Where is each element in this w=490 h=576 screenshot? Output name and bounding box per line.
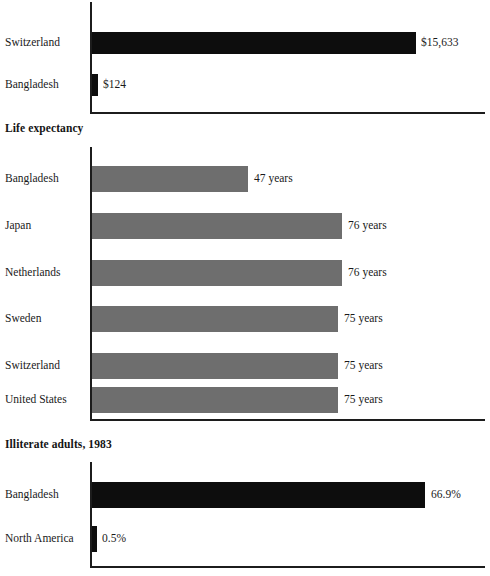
- bar-value-united-states: 75 years: [344, 394, 383, 406]
- chart-illiterate-adults-y-axis: [90, 462, 92, 568]
- bar-bangladesh: [92, 166, 248, 192]
- row-label-switzerland: Switzerland: [5, 360, 60, 372]
- chart-life-expectancy-title: Life expectancy: [5, 122, 83, 134]
- bar-bangladesh: [92, 482, 425, 508]
- row-label-sweden: Sweden: [5, 313, 41, 325]
- chart-gnp: Switzerland $15,633 Bangladesh $124: [0, 0, 490, 116]
- chart-illiterate-adults-title: Illiterate adults, 1983: [5, 438, 112, 450]
- bar-value-bangladesh: $124: [103, 79, 126, 91]
- row-label-bangladesh: Bangladesh: [5, 173, 59, 185]
- row-label-bangladesh: Bangladesh: [5, 79, 59, 91]
- bar-sweden: [92, 306, 338, 332]
- bar-north-america: [92, 526, 97, 552]
- bar-japan: [92, 213, 342, 239]
- bar-bangladesh: [92, 74, 98, 96]
- chart-life-expectancy-x-axis: [90, 419, 485, 421]
- bar-value-sweden: 75 years: [344, 313, 383, 325]
- chart-gnp-y-axis: [90, 2, 92, 114]
- bar-value-bangladesh: 66.9%: [431, 489, 461, 501]
- bar-netherlands: [92, 260, 342, 286]
- chart-illiterate-adults-x-axis: [90, 566, 485, 568]
- bar-switzerland: [92, 353, 338, 379]
- bar-switzerland: [92, 32, 416, 54]
- chart-illiterate-adults: Bangladesh 66.9% North America 0.5%: [0, 462, 490, 576]
- row-label-switzerland: Switzerland: [5, 37, 60, 49]
- bar-value-north-america: 0.5%: [102, 533, 126, 545]
- bar-value-japan: 76 years: [348, 220, 387, 232]
- row-label-north-america: North America: [5, 533, 74, 545]
- bar-value-switzerland: $15,633: [421, 37, 458, 49]
- chart-gnp-x-axis: [90, 112, 485, 114]
- row-label-bangladesh: Bangladesh: [5, 489, 59, 501]
- bar-chart-figure: Switzerland $15,633 Bangladesh $124 Life…: [0, 0, 490, 576]
- chart-life-expectancy: Bangladesh 47 years Japan 76 years Nethe…: [0, 147, 490, 423]
- row-label-japan: Japan: [5, 220, 31, 232]
- row-label-netherlands: Netherlands: [5, 267, 61, 279]
- bar-value-bangladesh: 47 years: [254, 173, 293, 185]
- bar-value-netherlands: 76 years: [348, 267, 387, 279]
- bar-value-switzerland: 75 years: [344, 360, 383, 372]
- row-label-united-states: United States: [5, 394, 67, 406]
- bar-united-states: [92, 387, 338, 413]
